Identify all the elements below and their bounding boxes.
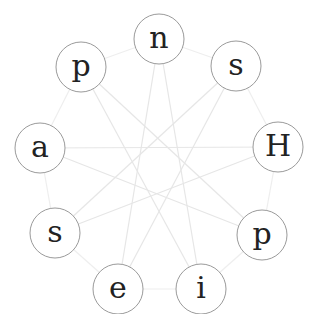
graph-edge	[81, 67, 262, 235]
node-label: a	[31, 129, 49, 164]
graph-node-p[interactable]: p	[237, 210, 287, 260]
graph-edge	[81, 67, 201, 289]
node-label: e	[109, 270, 127, 305]
graph-node-p[interactable]: p	[56, 42, 106, 92]
graph-node-i[interactable]: i	[176, 264, 226, 314]
graph-edge	[159, 39, 201, 289]
graph-node-e[interactable]: e	[93, 264, 143, 314]
node-label: n	[149, 20, 168, 55]
node-label: H	[265, 128, 291, 163]
graph-node-s[interactable]: s	[30, 208, 80, 258]
graph-edge	[40, 147, 278, 148]
graph-node-n[interactable]: n	[134, 14, 184, 64]
node-label: i	[196, 270, 206, 305]
node-label: s	[47, 214, 62, 249]
graph-diagram: nsHpiesap	[0, 0, 322, 314]
graph-node-a[interactable]: a	[15, 123, 65, 173]
graph-canvas: nsHpiesap	[0, 0, 322, 314]
graph-node-H[interactable]: H	[253, 122, 303, 172]
node-label: s	[228, 47, 243, 82]
nodes: nsHpiesap	[15, 14, 303, 314]
node-label: p	[252, 216, 271, 251]
graph-node-s[interactable]: s	[211, 41, 261, 91]
node-label: p	[71, 48, 90, 83]
